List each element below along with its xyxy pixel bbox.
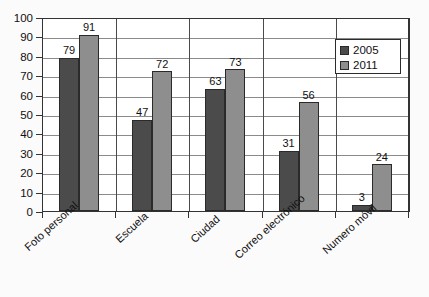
bar-value-label: 47 [126,106,158,118]
x-axis: Foto personal Escuela Ciudad Correo elec… [0,212,429,297]
bar-value-label: 31 [273,137,305,149]
bar-2011[interactable] [372,164,392,211]
bar-value-label: 3 [346,191,378,203]
y-tick-label: 20 [20,168,33,179]
y-tick-label: 100 [14,13,33,24]
bar-group: 79 91 [43,19,116,211]
legend-item-2005[interactable]: 2005 [340,43,400,57]
y-tick-label: 70 [20,71,33,82]
legend: 2005 2011 [335,39,401,74]
bar-group: 63 73 [189,19,262,211]
bar-2005[interactable] [205,89,225,211]
bar-2011[interactable] [225,69,245,211]
y-tick-label: 80 [20,52,33,63]
bar-value-label: 91 [73,21,105,33]
y-tick-label: 10 [20,188,33,199]
bar-value-label: 73 [219,56,251,68]
legend-swatch-icon [340,46,349,55]
bar-value-label: 72 [146,58,178,70]
y-tick-label: 40 [20,129,33,140]
y-tick-label: 60 [20,91,33,102]
y-axis: 0 10 20 30 40 50 60 70 80 90 100 [0,18,38,212]
bar-2011[interactable] [79,35,99,212]
x-tick-label: Escuela [113,210,150,245]
bar-value-label: 79 [53,44,85,56]
bar-chart: 0 10 20 30 40 50 60 70 80 90 100 [0,0,429,297]
x-tick-label: Ciudad [188,213,222,245]
legend-label: 2011 [353,59,378,71]
bar-group: 47 72 [116,19,189,211]
bar-2005[interactable] [59,58,79,211]
bar-group: 31 56 [263,19,336,211]
bar-value-label: 56 [293,89,325,101]
y-tick-label: 30 [20,149,33,160]
y-tick-label: 50 [20,110,33,121]
bar-2005[interactable] [132,120,152,211]
legend-item-2011[interactable]: 2011 [340,58,400,72]
bar-value-label: 24 [366,151,398,163]
y-tick-label: 90 [20,32,33,43]
legend-swatch-icon [340,61,349,70]
legend-label: 2005 [353,44,379,56]
bar-value-label: 63 [199,75,231,87]
plot-area: 79 91 47 72 63 73 31 56 [42,18,410,212]
bar-2011[interactable] [152,71,172,211]
